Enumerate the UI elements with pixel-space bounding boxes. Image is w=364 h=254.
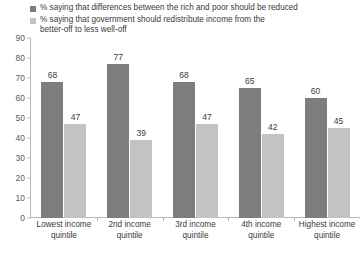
bar-series-2[interactable]: 47 (196, 124, 218, 218)
y-axis-tick-mark (27, 158, 30, 159)
y-axis-tick-mark (27, 38, 30, 39)
bar-groups: 68477739684765426045 (31, 38, 360, 218)
bar-group: 7739 (97, 38, 163, 218)
legend-label-series-2: % saying that government should redistri… (40, 15, 265, 36)
bar-series-1[interactable]: 68 (173, 82, 195, 218)
legend-label-series-1: % saying that differences between the ri… (40, 3, 298, 14)
x-axis-category-label: 4th income quintile (228, 220, 294, 241)
y-axis-tick-mark (27, 98, 30, 99)
y-axis-tick-mark (27, 197, 30, 198)
bar-value-label: 42 (268, 122, 277, 132)
y-axis-tick-mark (27, 57, 30, 58)
bar-value-label: 65 (245, 76, 254, 86)
bar-series-1[interactable]: 68 (41, 82, 63, 218)
bar-group: 6847 (31, 38, 97, 218)
bar-value-label: 39 (136, 128, 145, 138)
y-axis-tick-mark (27, 117, 30, 118)
bar-value-label: 47 (71, 112, 80, 122)
grouped-bar-chart: % saying that differences between the ri… (0, 0, 364, 254)
x-axis-category-label: Highest income quintile (294, 220, 360, 241)
bar-group: 6847 (163, 38, 229, 218)
bar-value-label: 45 (334, 116, 343, 126)
bar-value-label: 68 (48, 70, 57, 80)
legend-entry-series-1[interactable]: % saying that differences between the ri… (30, 3, 360, 14)
bar-value-label: 47 (202, 112, 211, 122)
bar-series-2[interactable]: 47 (64, 124, 86, 218)
bar-series-2[interactable]: 45 (328, 128, 350, 218)
legend-swatch-icon-series-2 (30, 18, 36, 24)
legend-entry-series-2[interactable]: % saying that government should redistri… (30, 15, 360, 36)
x-axis-category-label: 2nd income quintile (97, 220, 163, 241)
chart-legend: % saying that differences between the ri… (30, 3, 360, 37)
y-axis-tick-mark (27, 218, 30, 219)
bar-value-label: 77 (113, 52, 122, 62)
bar-series-2[interactable]: 39 (130, 140, 152, 218)
x-axis-category-label: Lowest income quintile (31, 220, 97, 241)
legend-swatch-icon-series-1 (30, 6, 36, 12)
x-axis-category-labels: Lowest income quintile2nd income quintil… (31, 220, 360, 241)
bar-group: 6542 (228, 38, 294, 218)
bar-series-1[interactable]: 65 (239, 88, 261, 218)
bar-series-1[interactable]: 60 (305, 98, 327, 218)
plot-area: 0102030405060708090 68477739684765426045 (30, 38, 360, 218)
y-axis-tick-mark (27, 77, 30, 78)
bar-value-label: 60 (311, 86, 320, 96)
bar-value-label: 68 (179, 70, 188, 80)
bar-group: 6045 (294, 38, 360, 218)
x-axis-category-label: 3rd income quintile (163, 220, 229, 241)
y-axis-tick-mark (27, 178, 30, 179)
y-axis-tick-mark (27, 138, 30, 139)
bar-series-1[interactable]: 77 (107, 64, 129, 218)
bar-series-2[interactable]: 42 (262, 134, 284, 218)
